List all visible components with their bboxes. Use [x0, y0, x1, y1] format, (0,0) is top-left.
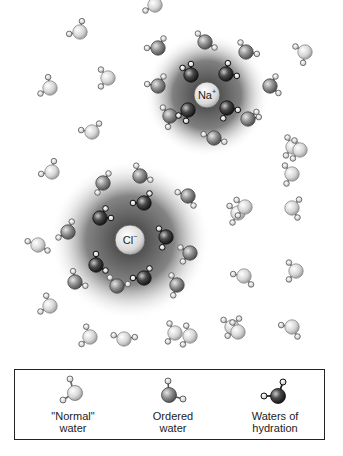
normal-water-molecule	[285, 197, 302, 221]
legend-label-ordered-line1: Ordered	[123, 410, 223, 422]
legend-label-normal-line1: "Normal"	[23, 410, 123, 422]
legend-label-ordered-line2: water	[123, 422, 223, 434]
normal-water-molecule	[286, 260, 303, 282]
normal-water-molecule	[66, 18, 87, 39]
cl-symbol: Cl	[123, 234, 133, 246]
legend-item-ordered-water: Ordered water	[123, 370, 223, 440]
normal-water-molecule	[282, 163, 299, 187]
normal-water-molecule	[143, 0, 163, 13]
normal-water-molecule	[180, 323, 197, 347]
legend: "Normal" water Ordered water Waters of h…	[14, 369, 325, 440]
normal-water-molecule	[38, 293, 58, 314]
legend-item-hydration-water: Waters of hydration	[225, 370, 325, 440]
legend-label-hydration-line2: hydration	[225, 422, 325, 434]
cl-ion-label: Cl−	[116, 233, 144, 246]
na-symbol: Na	[198, 89, 212, 101]
normal-water-molecule	[293, 44, 313, 66]
normal-water-molecule	[278, 320, 300, 340]
legend-label-hydration-line1: Waters of	[225, 410, 325, 422]
hydration-water-icon	[255, 374, 295, 410]
ordered-water-molecule	[144, 36, 166, 56]
normal-water-molecule	[78, 121, 102, 139]
normal-water-molecule	[98, 67, 115, 89]
normal-water-molecule	[111, 332, 138, 346]
normal-water-icon	[53, 374, 93, 410]
na-charge: +	[212, 88, 216, 95]
normal-water-molecule	[38, 158, 59, 179]
normal-water-molecule	[230, 269, 254, 287]
normal-water-molecule	[290, 138, 307, 162]
normal-water-molecule	[79, 324, 97, 347]
normal-water-molecule	[38, 74, 58, 96]
normal-water-molecule	[165, 321, 182, 345]
na-ion-label: Na+	[194, 88, 220, 101]
normal-water-molecule	[25, 238, 50, 254]
ordered-water-icon	[153, 374, 193, 410]
legend-label-normal-line2: water	[23, 422, 123, 434]
ordered-water-molecule	[238, 40, 260, 60]
cl-charge: −	[133, 233, 137, 240]
legend-item-normal-water: "Normal" water	[23, 370, 123, 440]
